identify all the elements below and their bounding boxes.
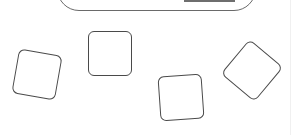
panel-accent-bar	[184, 0, 235, 2]
draggable-tile-2[interactable]	[88, 31, 132, 76]
right-edge-divider	[290, 0, 291, 135]
draggable-tile-3[interactable]	[157, 73, 204, 121]
draggable-tile-4[interactable]	[221, 39, 284, 102]
draggable-tile-1[interactable]	[11, 48, 62, 100]
